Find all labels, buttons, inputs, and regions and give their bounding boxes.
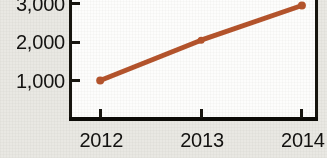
y-tick-1000 [71,79,80,82]
line-chart-figure: 3,000 2,000 1,000 2012 2013 2014 [0,0,327,158]
x-tick-2013 [200,109,203,118]
y-axis-line [69,0,72,120]
x-tick-2012 [99,109,102,118]
data-point-2012 [96,77,104,85]
y-tick-3000 [71,2,80,5]
x-axis-line [69,117,318,121]
data-point-2013 [198,37,205,44]
plot-right-border [315,0,318,119]
data-series-layer [0,0,327,158]
y-tick-2000 [71,41,80,44]
data-point-2014 [298,2,306,10]
x-tick-2014 [300,109,303,118]
